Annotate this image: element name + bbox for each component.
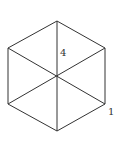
label-one: 1: [108, 107, 114, 117]
label-four: 4: [60, 48, 66, 58]
hexagon-svg: [0, 0, 122, 146]
hexagon-diagram: 4 1: [0, 0, 122, 146]
